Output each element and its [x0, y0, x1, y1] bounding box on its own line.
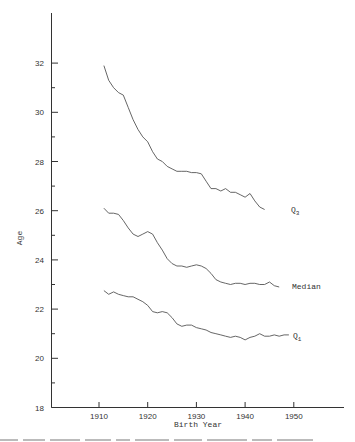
line-chart: 1820222426283032 19101920193019401950 Q3…	[0, 0, 355, 442]
y-ticks: 1820222426283032	[35, 59, 58, 412]
x-tick-label: 1910	[90, 412, 108, 421]
x-tick-label: 1950	[285, 412, 303, 421]
y-tick-label: 26	[35, 207, 44, 216]
y-axis-title: Age	[15, 231, 24, 246]
y-tick-label: 32	[35, 59, 44, 68]
series-line-median	[104, 208, 279, 287]
y-tick-label: 30	[35, 108, 44, 117]
series-labels: Q3MedianQ1	[291, 205, 321, 343]
series-label-q1: Q1	[293, 331, 302, 343]
series-group	[104, 66, 289, 340]
x-ticks: 19101920193019401950	[90, 402, 303, 421]
axes	[52, 13, 345, 408]
x-tick-label: 1920	[139, 412, 157, 421]
y-tick-label: 18	[35, 404, 44, 413]
cutoff-caption-line	[0, 437, 355, 442]
y-tick-label: 28	[35, 158, 44, 167]
y-tick-label: 20	[35, 354, 44, 363]
series-line-q1	[104, 291, 289, 340]
y-tick-label: 22	[35, 305, 44, 314]
series-label-median: Median	[292, 282, 321, 291]
y-tick-label: 24	[35, 256, 44, 265]
series-line-q3	[104, 66, 265, 210]
x-axis-title: Birth Year	[174, 420, 222, 429]
x-tick-label: 1940	[236, 412, 254, 421]
series-label-q3: Q3	[291, 205, 300, 217]
